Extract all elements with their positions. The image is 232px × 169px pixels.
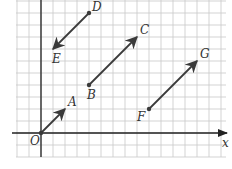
vector-de bbox=[53, 13, 89, 49]
point-label-e: E bbox=[51, 52, 61, 66]
point-label-c: C bbox=[140, 23, 149, 37]
axes: x bbox=[12, 0, 229, 157]
point-label-d: D bbox=[91, 0, 102, 14]
x-axis-label: x bbox=[222, 136, 229, 150]
point-label-o: O bbox=[30, 134, 40, 148]
point-label-g: G bbox=[200, 47, 210, 61]
point-label-b: B bbox=[86, 88, 96, 102]
vector-diagram: x OABCDEFG bbox=[0, 0, 232, 169]
point-dot-b bbox=[87, 83, 91, 87]
point-dot-d bbox=[87, 11, 91, 15]
point-dot-f bbox=[147, 107, 151, 111]
point-label-f: F bbox=[136, 110, 146, 124]
point-label-a: A bbox=[67, 95, 77, 109]
